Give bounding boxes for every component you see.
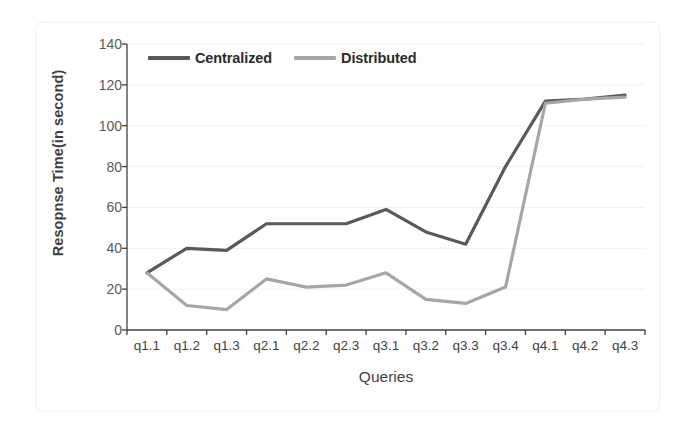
line-chart: Resopnse Time(in second) 020406080100120… <box>0 0 699 431</box>
series-line-distributed <box>147 97 625 309</box>
x-tick-label: q3.2 <box>413 338 439 353</box>
x-tick-label: q4.3 <box>612 338 638 353</box>
legend-label-centralized: Centralized <box>195 50 272 66</box>
legend-swatch-centralized <box>148 56 190 60</box>
legend-label-distributed: Distributed <box>341 50 416 66</box>
x-tick-label: q1.2 <box>174 338 200 353</box>
series-line-centralized <box>147 95 625 273</box>
x-tick-label: q1.3 <box>213 338 239 353</box>
legend-item-centralized: Centralized <box>148 50 272 66</box>
legend-item-distributed: Distributed <box>294 50 416 66</box>
x-tick-label: q3.4 <box>492 338 518 353</box>
x-tick-label: q3.3 <box>453 338 479 353</box>
x-axis-title: Queries <box>127 368 645 386</box>
x-tick-label: q4.1 <box>532 338 558 353</box>
x-tick-label: q3.1 <box>373 338 399 353</box>
legend-swatch-distributed <box>294 56 336 60</box>
x-tick-label: q2.2 <box>293 338 319 353</box>
chart-legend: Centralized Distributed <box>148 50 417 66</box>
x-tick-label: q2.3 <box>333 338 359 353</box>
x-tick-label: q4.2 <box>572 338 598 353</box>
x-tick-label: q1.1 <box>134 338 160 353</box>
x-tick-label: q2.1 <box>253 338 279 353</box>
